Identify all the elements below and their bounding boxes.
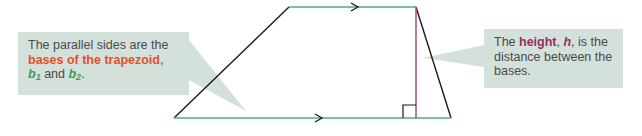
callout-text: The xyxy=(494,35,519,49)
callout-text: and xyxy=(41,67,69,81)
punctuation: . xyxy=(81,67,84,81)
bases-callout: The parallel sides are the bases of the … xyxy=(28,38,193,82)
b2-label: b2 xyxy=(68,67,81,81)
punctuation: , xyxy=(160,53,163,67)
b-symbol: b xyxy=(28,67,36,81)
h-symbol: h xyxy=(563,35,571,49)
right-angle-icon xyxy=(403,105,416,118)
height-callout: The height, h, is the distance between t… xyxy=(494,35,619,79)
callout-text: The parallel sides are the xyxy=(28,38,168,52)
bases-term: bases of the trapezoid xyxy=(28,53,160,67)
b-symbol: b xyxy=(68,67,76,81)
right-leg xyxy=(416,7,451,118)
b1-label: b1 xyxy=(28,67,41,81)
height-term: height xyxy=(519,35,557,49)
